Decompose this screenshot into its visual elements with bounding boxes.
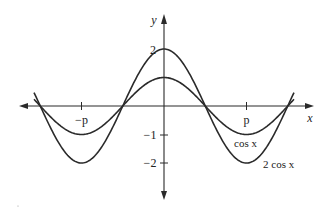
x-axis-left-arrow-icon	[19, 103, 28, 109]
x-axis-label: x	[306, 111, 313, 125]
y-axis-down-arrow-icon	[161, 191, 167, 200]
x-axis-right-arrow-icon	[305, 103, 314, 109]
cosine-chart: −p p x 2 −1 −2 y cos x 2 cos x	[0, 0, 329, 212]
y-axis-label: y	[150, 13, 157, 27]
label-2-cos-x: 2 cos x	[263, 158, 295, 170]
label-cos-x: cos x	[234, 137, 257, 149]
y-axis-up-arrow-icon	[161, 14, 167, 24]
tick-label-neg-pi: −p	[75, 113, 88, 127]
tick-label-pi: p	[244, 113, 250, 127]
tick-label-y-neg2: −2	[144, 156, 157, 170]
speck-mark	[17, 205, 18, 206]
tick-label-y-neg1: −1	[144, 128, 157, 142]
